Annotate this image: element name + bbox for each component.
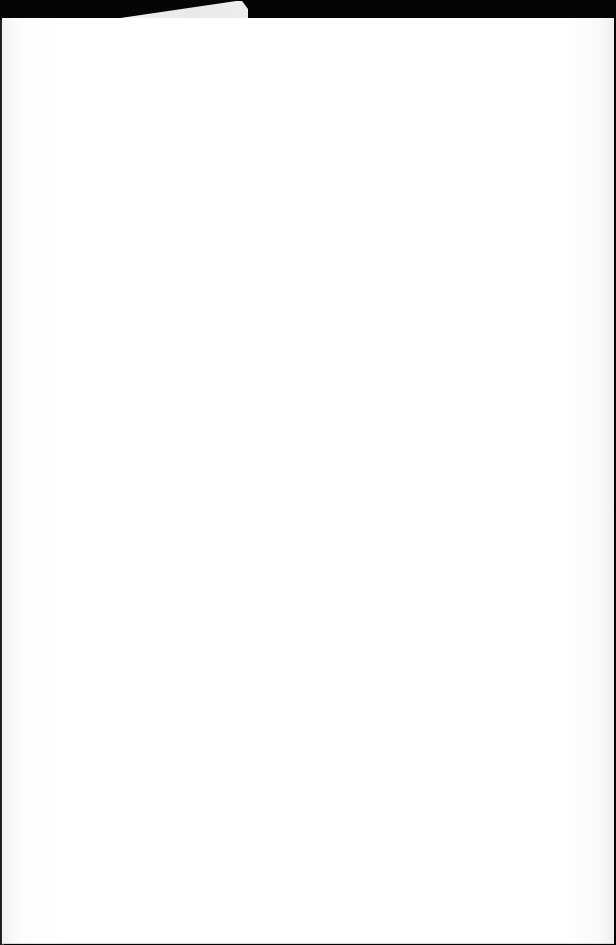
scanned-document [0, 0, 616, 945]
blank-page [2, 18, 614, 944]
